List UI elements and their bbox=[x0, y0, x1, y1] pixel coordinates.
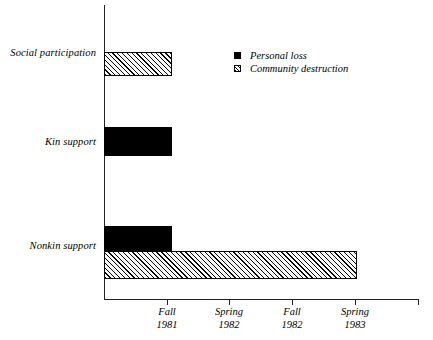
x-tick-label-fall-1981-line1: Fall bbox=[158, 306, 176, 317]
bar-nonkin-support-community-destruction bbox=[104, 251, 357, 279]
category-label-nonkin-support: Nonkin support bbox=[30, 240, 96, 251]
legend-swatch-hatched-icon bbox=[234, 65, 241, 72]
category-label-kin-support: Kin support bbox=[45, 136, 96, 147]
legend-label-community-destruction: Community destruction bbox=[250, 63, 348, 75]
x-axis-tick-fall-1981 bbox=[167, 300, 168, 305]
chart-legend: Personal loss Community destruction bbox=[234, 49, 348, 75]
legend-entry-personal-loss: Personal loss bbox=[234, 49, 348, 62]
x-axis-tick-spring-1982 bbox=[229, 300, 230, 305]
x-axis-line bbox=[104, 299, 419, 300]
legend-label-personal-loss: Personal loss bbox=[250, 50, 307, 62]
x-tick-label-spring-1983: Spring 1983 bbox=[315, 306, 395, 331]
x-tick-label-spring-1982-line1: Spring bbox=[215, 306, 243, 317]
x-axis-tick-end bbox=[418, 300, 419, 305]
x-axis-tick-spring-1983 bbox=[355, 300, 356, 305]
legend-entry-community-destruction: Community destruction bbox=[234, 62, 348, 75]
x-tick-label-fall-1982-line1: Fall bbox=[283, 306, 301, 317]
bar-kin-support-personal-loss bbox=[104, 127, 172, 156]
bar-chart: Social participation Kin support Nonkin … bbox=[0, 0, 433, 340]
bar-nonkin-support-personal-loss bbox=[104, 226, 172, 251]
x-tick-label-spring-1983-line1: Spring bbox=[341, 306, 369, 317]
category-label-social-participation: Social participation bbox=[10, 47, 96, 58]
x-axis-tick-fall-1982 bbox=[292, 300, 293, 305]
x-tick-label-spring-1983-line2: 1983 bbox=[315, 319, 395, 332]
legend-swatch-solid-icon bbox=[234, 52, 241, 59]
bar-social-participation-community-destruction bbox=[104, 52, 172, 76]
